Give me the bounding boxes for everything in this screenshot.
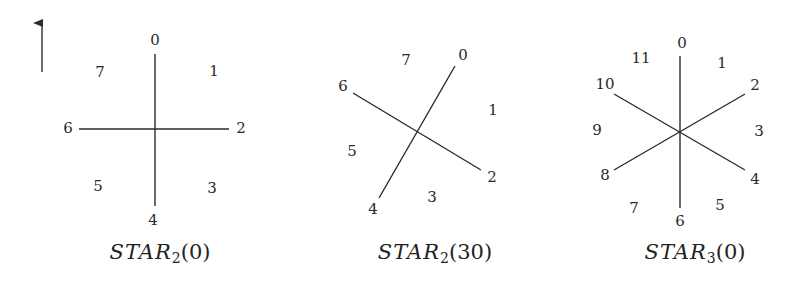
- region-label: 0: [458, 48, 468, 63]
- region-label: 0: [150, 33, 160, 48]
- caption-subscript: 3: [707, 250, 716, 266]
- region-label: 6: [63, 121, 73, 136]
- region-label: 3: [427, 190, 437, 205]
- region-label: 4: [368, 202, 378, 217]
- star-2-lines: [614, 56, 745, 208]
- region-label: 1: [717, 56, 727, 71]
- region-label: 2: [487, 170, 497, 185]
- caption-name: STAR: [645, 240, 707, 264]
- region-label: 2: [236, 121, 246, 136]
- region-label: 1: [209, 64, 219, 79]
- caption-name: STAR: [378, 240, 440, 264]
- caption-arg: (0): [181, 240, 211, 264]
- region-label: 7: [629, 201, 639, 216]
- region-label: 7: [95, 65, 105, 80]
- region-label: 2: [750, 78, 760, 93]
- region-label: 11: [631, 51, 650, 66]
- region-label: 5: [347, 144, 357, 159]
- region-label: 7: [401, 53, 411, 68]
- caption-subscript: 2: [172, 250, 181, 266]
- region-label: 5: [93, 179, 103, 194]
- caption-arg: (0): [716, 240, 746, 264]
- region-label: 6: [675, 214, 685, 229]
- region-label: 0: [677, 36, 687, 51]
- star-line: [353, 93, 481, 170]
- caption-arg: (30): [449, 240, 492, 264]
- region-label: 5: [715, 198, 725, 213]
- caption-star2-30: STAR2(30): [378, 240, 492, 266]
- region-label: 4: [148, 213, 158, 228]
- star-lines: [79, 54, 745, 208]
- caption-star3-0: STAR3(0): [645, 240, 746, 266]
- region-label: 8: [600, 168, 610, 183]
- region-label: 10: [595, 77, 614, 92]
- region-label: 3: [207, 181, 217, 196]
- region-label: 3: [754, 124, 764, 139]
- caption-name: STAR: [110, 240, 172, 264]
- caption-subscript: 2: [440, 250, 449, 266]
- region-label: 9: [592, 123, 602, 138]
- region-label: 4: [750, 172, 760, 187]
- region-label: 6: [338, 79, 348, 94]
- region-label: 1: [488, 103, 498, 118]
- caption-star2-0: STAR2(0): [110, 240, 211, 266]
- star-1-lines: [353, 66, 481, 198]
